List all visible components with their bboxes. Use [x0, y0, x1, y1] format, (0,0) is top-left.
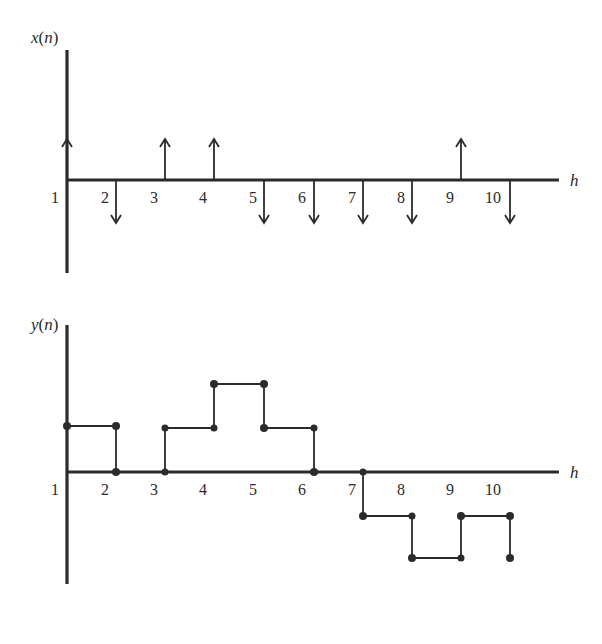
bottom-y-axis-label: y(n) [29, 315, 58, 334]
tick-label: 5 [249, 481, 257, 498]
data-point [162, 469, 169, 476]
data-point [408, 554, 416, 562]
tick-label: 4 [199, 481, 207, 498]
bottom-x-axis-label: h [570, 463, 579, 482]
data-point [260, 424, 268, 432]
data-point [210, 380, 218, 388]
data-point [260, 380, 268, 388]
tick-label: 5 [249, 189, 257, 206]
data-point [162, 425, 169, 432]
top-tick-labels: 1 2 3 4 5 6 7 8 9 10 [51, 189, 501, 206]
figure: x(n) h [0, 0, 602, 644]
data-point [506, 554, 514, 562]
tick-label: 7 [348, 189, 356, 206]
tick-label: 8 [397, 481, 405, 498]
tick-label: 4 [199, 189, 207, 206]
data-point [310, 468, 318, 476]
tick-label: 6 [298, 481, 306, 498]
tick-label: 10 [485, 481, 501, 498]
impulse-2-down [111, 180, 121, 223]
tick-label: 2 [101, 481, 109, 498]
tick-label: 1 [51, 189, 59, 206]
bottom-tick-labels: 1 2 3 4 5 6 7 8 9 10 [51, 481, 501, 498]
data-point [112, 468, 120, 476]
bottom-plot: y(n) h 1 [29, 315, 579, 584]
tick-label: 6 [298, 189, 306, 206]
tick-label: 2 [101, 189, 109, 206]
data-point [211, 425, 218, 432]
tick-label: 1 [51, 481, 59, 498]
tick-label: 9 [446, 481, 454, 498]
tick-label: 10 [485, 189, 501, 206]
impulse-7-down [358, 180, 368, 223]
impulse-3-up [160, 139, 170, 180]
impulse-4-up [209, 139, 219, 180]
impulse-1-up [62, 139, 72, 180]
impulse-8-down [407, 180, 417, 223]
data-point [458, 555, 465, 562]
impulse-9-up [456, 139, 466, 180]
impulse-10-down [505, 180, 515, 223]
impulse-6-down [309, 180, 319, 223]
top-y-axis-label: x(n) [30, 28, 58, 47]
tick-label: 3 [150, 481, 158, 498]
top-plot: x(n) h [30, 28, 579, 273]
data-point [63, 422, 71, 430]
data-point [409, 513, 416, 520]
tick-label: 8 [397, 189, 405, 206]
data-point [112, 422, 120, 430]
data-point [360, 469, 367, 476]
top-x-axis-label: h [570, 171, 579, 190]
tick-label: 7 [348, 481, 356, 498]
impulse-5-down [259, 180, 269, 223]
data-point [359, 512, 367, 520]
data-point [311, 425, 318, 432]
data-point [457, 512, 465, 520]
tick-label: 3 [150, 189, 158, 206]
tick-label: 9 [446, 189, 454, 206]
data-point [506, 512, 514, 520]
